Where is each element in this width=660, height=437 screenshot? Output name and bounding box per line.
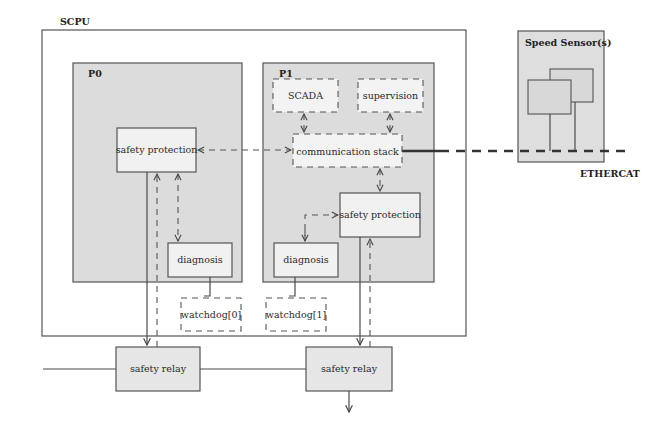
p1-scada-box: SCADA — [273, 79, 338, 112]
p1-diagnosis-label: diagnosis — [283, 254, 329, 265]
p0-diagnosis-box: diagnosis — [168, 243, 232, 277]
p0-label: P0 — [88, 68, 102, 79]
p1-communication-stack-box: communication stack — [293, 134, 402, 167]
diagram-canvas: SCPU P0 P1 Speed Sensor(s) ETHERCAT safe… — [0, 0, 660, 437]
p0-safety-protection-box: safety protection — [116, 128, 198, 172]
safety-relay-1-label: safety relay — [321, 363, 378, 374]
p1-supervision-label: supervision — [363, 90, 418, 101]
p0-diagnosis-label: diagnosis — [177, 254, 223, 265]
p1-communication-stack-label: communication stack — [296, 146, 399, 157]
watchdog-1-label: watchdog[1] — [266, 309, 326, 320]
p1-supervision-box: supervision — [358, 79, 423, 112]
watchdog-0-box: watchdog[0] — [181, 298, 241, 331]
watchdog-0-label: watchdog[0] — [181, 309, 241, 320]
speed-sensor-label: Speed Sensor(s) — [525, 37, 611, 48]
p1-safety-protection-label: safety protection — [339, 209, 421, 220]
p0-safety-protection-label: safety protection — [116, 144, 198, 155]
watchdog-1-box: watchdog[1] — [266, 298, 326, 331]
speed-sensor-box: Speed Sensor(s) — [518, 31, 611, 162]
p1-diagnosis-box: diagnosis — [274, 243, 338, 277]
p1-safety-protection-box: safety protection — [339, 193, 421, 237]
sensor-icon-front — [528, 80, 571, 114]
safety-relay-0-box: safety relay — [116, 347, 200, 391]
p1-label: P1 — [279, 68, 293, 79]
safety-relay-0-label: safety relay — [130, 363, 187, 374]
p1-scada-label: SCADA — [288, 90, 323, 101]
safety-relay-1-box: safety relay — [306, 347, 392, 391]
scpu-label: SCPU — [60, 16, 91, 27]
ethercat-label: ETHERCAT — [580, 168, 640, 179]
